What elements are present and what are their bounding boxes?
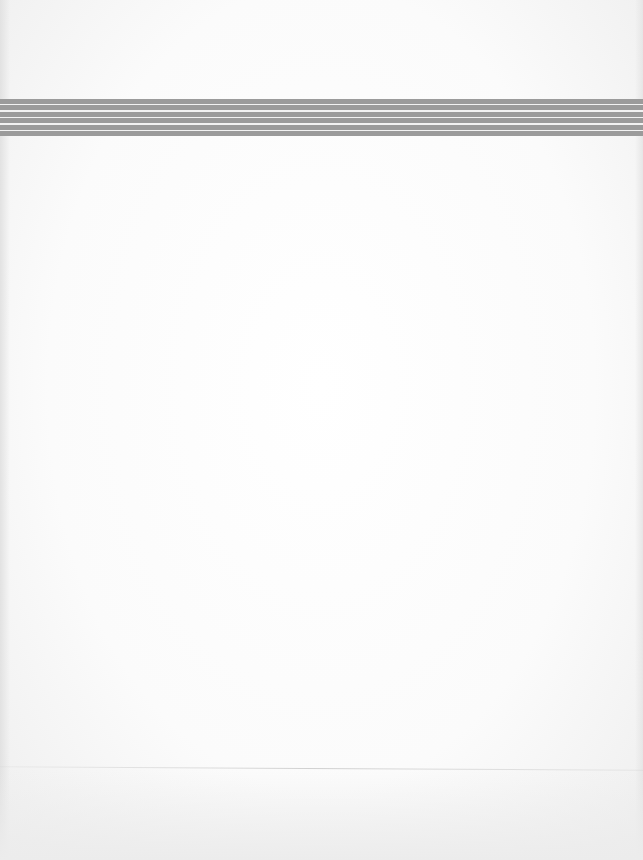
stripe [0, 131, 643, 136]
bottom-shading [0, 770, 643, 860]
striped-rule-band [0, 99, 643, 136]
scanned-page [0, 0, 643, 860]
